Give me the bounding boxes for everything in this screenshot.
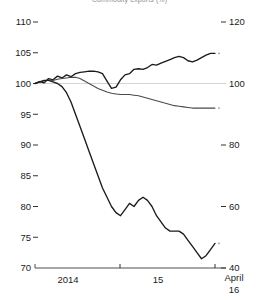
x-axis-label-2014: 2014 xyxy=(57,274,78,285)
y-axis-left-label: 85 xyxy=(20,170,31,181)
y-axis-left-label: 70 xyxy=(20,262,31,273)
commodity-exports-chart: Commodity exports (%) 110105100959085807… xyxy=(0,0,259,300)
series-line-declining-flat-series xyxy=(35,77,215,108)
y-axis-right-label: 100 xyxy=(229,78,245,89)
x-axis-label-april: April xyxy=(224,272,243,283)
y-axis-right-label: 60 xyxy=(229,201,240,212)
y-axis-left-label: 105 xyxy=(15,47,31,58)
x-axis-label-16: 16 xyxy=(229,284,240,295)
y-axis-left-label: 100 xyxy=(15,78,31,89)
x-axis-label-15: 15 xyxy=(153,274,164,285)
y-axis-left-label: 110 xyxy=(16,16,31,27)
chart-title: Commodity exports (%) xyxy=(0,0,259,4)
y-axis-left-label: 80 xyxy=(20,201,31,212)
y-axis-left-label: 75 xyxy=(20,232,31,243)
series-end-marker xyxy=(218,243,220,245)
series-end-marker xyxy=(218,52,220,54)
y-axis-right-label: 120 xyxy=(229,16,245,27)
chart-plot-area: 110105100959085807570120100806040201415A… xyxy=(0,0,259,300)
y-axis-left-label: 95 xyxy=(20,109,31,120)
y-axis-left-label: 90 xyxy=(20,139,31,150)
y-axis-right-label: 80 xyxy=(229,139,240,150)
series-end-marker xyxy=(218,107,220,109)
